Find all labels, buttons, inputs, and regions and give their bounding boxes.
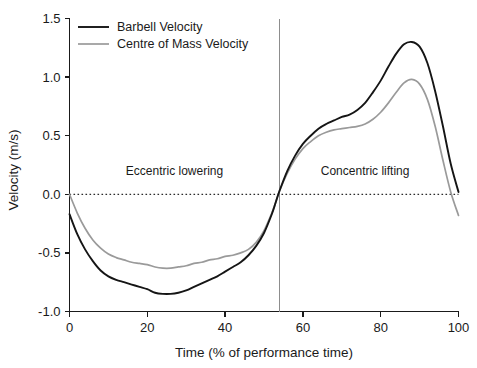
y-axis-tick-label: 1.0 bbox=[42, 70, 60, 85]
y-axis-tick-label: -1.0 bbox=[38, 304, 60, 319]
y-axis-tick-label: 0.0 bbox=[42, 187, 60, 202]
chart-legend: Barbell VelocityCentre of Mass Velocity bbox=[78, 20, 249, 51]
x-axis-tick-label: 0 bbox=[66, 320, 73, 335]
phase-annotation-concentric: Concentric lifting bbox=[321, 164, 410, 178]
x-axis-tick-label: 80 bbox=[373, 320, 387, 335]
legend-label-1: Centre of Mass Velocity bbox=[117, 37, 249, 51]
y-axis-title: Velocity (m/s) bbox=[6, 129, 21, 210]
y-axis-tick-label: 0.5 bbox=[42, 128, 60, 143]
x-axis-title: Time (% of performance time) bbox=[175, 345, 353, 360]
phase-annotation-eccentric: Eccentric lowering bbox=[126, 164, 223, 178]
y-axis-tick-label: 1.5 bbox=[42, 11, 60, 26]
x-axis-tick-label: 20 bbox=[140, 320, 154, 335]
legend-label-0: Barbell Velocity bbox=[117, 20, 203, 34]
x-axis-tick-label: 60 bbox=[296, 320, 310, 335]
velocity-time-chart-figure: -1.0-0.50.00.51.01.5020406080100 Eccentr… bbox=[0, 0, 477, 368]
y-axis-tick-label: -0.5 bbox=[38, 245, 60, 260]
x-axis-tick-label: 100 bbox=[448, 320, 470, 335]
chart-canvas: -1.0-0.50.00.51.01.5020406080100 Eccentr… bbox=[0, 0, 477, 368]
phase-annotations-group: Eccentric loweringConcentric lifting bbox=[126, 164, 410, 178]
x-axis-tick-label: 40 bbox=[218, 320, 232, 335]
